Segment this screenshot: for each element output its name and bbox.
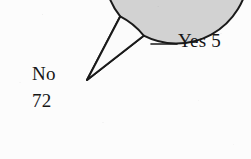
pie-value-no: 72 bbox=[32, 91, 51, 111]
pie-chart-figure: No 72 Yes 5 bbox=[0, 0, 251, 159]
pie-slice-yes bbox=[87, 16, 144, 80]
pie-label-yes: Yes 5 bbox=[178, 31, 221, 51]
pie-label-no: No bbox=[32, 64, 56, 84]
